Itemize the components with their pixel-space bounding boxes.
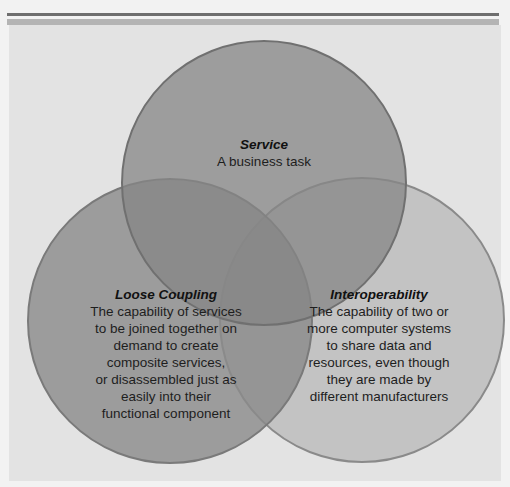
loose-coupling-title: Loose Coupling [66,286,266,303]
service-description: A business task [184,153,344,170]
loose-coupling-description: The capability of services to be joined … [66,303,266,422]
interoperability-description: The capability of two or more computer s… [284,303,474,405]
circle-service [122,41,406,325]
interoperability-label: Interoperability The capability of two o… [284,286,474,405]
service-title: Service [184,136,344,153]
service-label: Service A business task [184,136,344,170]
interoperability-title: Interoperability [284,286,474,303]
loose-coupling-label: Loose Coupling The capability of service… [66,286,266,422]
